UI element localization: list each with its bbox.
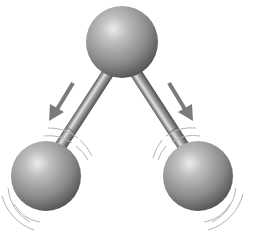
center-atom	[86, 6, 158, 78]
right-arrow-icon	[169, 83, 193, 121]
left-arrow-icon	[49, 83, 73, 121]
molecule-svg	[0, 0, 257, 238]
left-bond	[51, 63, 118, 157]
right-atom	[163, 141, 233, 211]
molecule-diagram	[0, 0, 257, 238]
left-atom	[11, 141, 81, 211]
